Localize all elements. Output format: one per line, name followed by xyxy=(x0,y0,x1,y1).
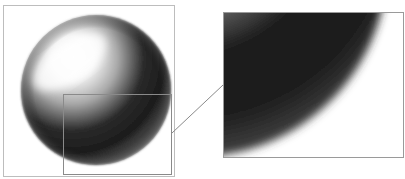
sphere xyxy=(21,15,171,165)
figure xyxy=(0,0,405,179)
connector-line xyxy=(172,85,223,133)
